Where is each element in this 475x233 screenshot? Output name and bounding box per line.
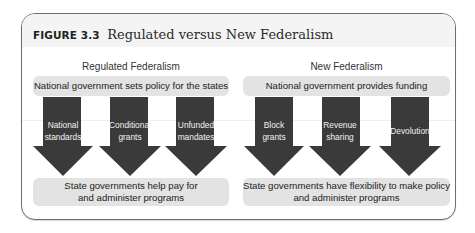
figure-title: FIGURE 3.3 Regulated versus New Federali… <box>33 25 333 43</box>
right-arrow-2-label: Revenue sharing <box>312 119 368 143</box>
right-arrow-1-label: Block grants <box>247 119 302 143</box>
left-arrow-3-label: Unfunded mandates <box>168 119 224 143</box>
right-arrow-3 <box>378 97 442 177</box>
right-group-heading: New Federalism <box>243 61 450 72</box>
left-group-heading: Regulated Federalism <box>33 61 229 72</box>
figure-label: FIGURE 3.3 <box>33 29 100 41</box>
left-top-box: National government sets policy for the … <box>33 76 229 96</box>
down-arrow-icon <box>378 97 442 177</box>
left-arrow-2-label: Conditional grants <box>102 119 158 143</box>
right-arrow-3-label: Devolution <box>382 125 438 137</box>
right-bottom-box: State governments have flexibility to ma… <box>243 178 450 206</box>
figure-frame: FIGURE 3.3 Regulated versus New Federali… <box>21 13 456 220</box>
right-top-box: National government provides funding <box>243 76 450 96</box>
figure-title-text: Regulated versus New Federalism <box>107 27 333 42</box>
left-bottom-box: State governments help pay for and admin… <box>33 178 229 206</box>
left-arrow-1-label: National standards <box>36 119 91 143</box>
